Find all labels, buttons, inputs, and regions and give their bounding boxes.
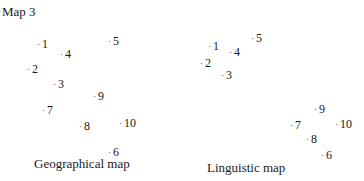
- point-marker-icon: ·: [27, 64, 30, 74]
- point-label: 6: [326, 148, 332, 162]
- point-marker-icon: ·: [119, 118, 122, 128]
- point-marker-icon: ·: [42, 105, 45, 115]
- geographical-map-caption: Geographical map: [34, 156, 130, 172]
- point-label: 1: [213, 39, 219, 53]
- point-label: 4: [234, 45, 240, 59]
- point-marker-icon: ·: [37, 39, 40, 49]
- point-label: 10: [340, 117, 352, 131]
- point-marker-icon: ·: [321, 150, 324, 160]
- point-marker-icon: ·: [79, 121, 82, 131]
- point-label: 9: [98, 89, 104, 103]
- point-marker-icon: ·: [290, 120, 293, 130]
- map-point: ·7: [290, 118, 301, 133]
- map-point: ·4: [229, 45, 240, 60]
- point-marker-icon: ·: [306, 134, 309, 144]
- map-point: ·9: [314, 102, 325, 117]
- map-point: ·1: [37, 37, 48, 52]
- point-marker-icon: ·: [108, 36, 111, 46]
- point-label: 1: [42, 37, 48, 51]
- map-point: ·8: [79, 119, 90, 134]
- point-marker-icon: ·: [251, 33, 254, 43]
- map-point: ·8: [306, 132, 317, 147]
- point-marker-icon: ·: [60, 49, 63, 59]
- map-point: ·10: [119, 116, 136, 131]
- geographical-map: ·1 ·2 ·3 ·4 ·5 ·6 ·7 ·8 ·9 ·10 Geographi…: [0, 0, 182, 181]
- point-label: 5: [113, 34, 119, 48]
- point-marker-icon: ·: [335, 119, 338, 129]
- map-point: ·5: [251, 31, 262, 46]
- point-marker-icon: ·: [229, 47, 232, 57]
- point-label: 8: [311, 132, 317, 146]
- point-label: 5: [256, 31, 262, 45]
- map-point: ·3: [53, 77, 64, 92]
- point-marker-icon: ·: [314, 104, 317, 114]
- point-label: 9: [319, 102, 325, 116]
- point-marker-icon: ·: [200, 58, 203, 68]
- point-marker-icon: ·: [53, 79, 56, 89]
- linguistic-map-caption: Linguistic map: [207, 160, 285, 176]
- map-point: ·5: [108, 34, 119, 49]
- point-label: 8: [84, 119, 90, 133]
- map-point: ·2: [200, 56, 211, 71]
- point-marker-icon: ·: [93, 91, 96, 101]
- point-label: 3: [58, 77, 64, 91]
- map-point: ·9: [93, 89, 104, 104]
- linguistic-map: ·1 ·2 ·3 ·4 ·5 ·6 ·7 ·8 ·9 ·10 Linguisti…: [182, 0, 364, 181]
- point-label: 3: [226, 68, 232, 82]
- map-point: ·4: [60, 47, 71, 62]
- map-point: ·10: [335, 117, 352, 132]
- map-point: ·1: [208, 39, 219, 54]
- point-marker-icon: ·: [208, 41, 211, 51]
- map-point: ·6: [321, 148, 332, 163]
- point-label: 7: [47, 103, 53, 117]
- map-point: ·2: [27, 62, 38, 77]
- map-point: ·3: [221, 68, 232, 83]
- point-label: 7: [295, 118, 301, 132]
- point-label: 4: [65, 47, 71, 61]
- point-label: 2: [32, 62, 38, 76]
- point-label: 2: [205, 56, 211, 70]
- point-marker-icon: ·: [221, 70, 224, 80]
- map-point: ·7: [42, 103, 53, 118]
- point-label: 10: [124, 116, 136, 130]
